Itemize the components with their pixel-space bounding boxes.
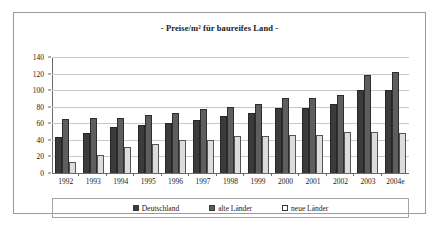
bar xyxy=(179,140,186,173)
legend-item: neue Länder xyxy=(282,204,328,213)
bar xyxy=(392,72,399,173)
x-axis-tick-mark xyxy=(271,173,272,176)
bar xyxy=(282,98,289,173)
bar xyxy=(55,137,62,173)
bar xyxy=(207,140,214,173)
x-axis-tick-mark xyxy=(106,173,107,176)
y-axis-tick-mark xyxy=(48,156,51,157)
bar xyxy=(302,108,309,173)
bar xyxy=(193,120,200,173)
bar xyxy=(165,123,172,173)
y-axis-tick-mark xyxy=(48,139,51,140)
x-axis-tick-label: 2001 xyxy=(299,177,326,186)
bar-group xyxy=(162,57,189,173)
bar xyxy=(83,133,90,173)
bar-group xyxy=(107,57,134,173)
bar xyxy=(110,127,117,173)
y-axis-tick-mark xyxy=(48,57,51,58)
x-axis-tick-mark xyxy=(326,173,327,176)
bar xyxy=(330,104,337,173)
bar xyxy=(344,132,351,173)
y-axis-tick-label: 60 xyxy=(37,119,45,128)
bar xyxy=(262,136,269,173)
bar xyxy=(399,133,406,173)
bar-group xyxy=(134,57,161,173)
bar xyxy=(90,118,97,173)
x-axis-tick-label: 2003 xyxy=(354,177,381,186)
x-axis-tick-label: 1993 xyxy=(79,177,106,186)
x-axis-tick-label: 2004e xyxy=(382,177,409,186)
bar xyxy=(234,136,241,173)
y-axis-tick-label: 140 xyxy=(33,53,44,62)
bar xyxy=(275,108,282,173)
y-axis-tick-mark xyxy=(48,173,51,174)
legend-item-label: alte Länder xyxy=(218,204,252,213)
dark-gray-swatch xyxy=(133,205,139,211)
legend-item-label: neue Länder xyxy=(291,204,328,213)
y-axis-tick-label: 100 xyxy=(33,86,44,95)
x-axis-tick-mark xyxy=(161,173,162,176)
bar xyxy=(172,113,179,173)
bar-group xyxy=(272,57,299,173)
y-axis-tick-label: 80 xyxy=(37,102,45,111)
legend-item: alte Länder xyxy=(209,204,252,213)
bar xyxy=(152,144,159,173)
y-axis-tick-mark xyxy=(48,123,51,124)
bar-group xyxy=(382,57,409,173)
bar-group xyxy=(52,57,79,173)
bar xyxy=(117,118,124,174)
bar-group xyxy=(217,57,244,173)
x-axis-tick-mark xyxy=(133,173,134,176)
chart-legend: Deutschlandalte Länderneue Länder xyxy=(52,198,409,218)
bar xyxy=(248,113,255,173)
x-axis-tick-mark xyxy=(216,173,217,176)
x-axis-tick-mark xyxy=(381,173,382,176)
bar-group xyxy=(299,57,326,173)
x-axis-tick-label: 1999 xyxy=(244,177,271,186)
bar xyxy=(97,155,104,173)
bar xyxy=(62,119,69,173)
y-axis-tick-mark xyxy=(48,106,51,107)
bar-group xyxy=(327,57,354,173)
y-axis-tick-labels: 020406080100120140 xyxy=(14,57,48,173)
x-axis-tick-label: 1996 xyxy=(162,177,189,186)
bar-group xyxy=(354,57,381,173)
y-axis-tick-label: 0 xyxy=(40,169,44,178)
legend-item-label: Deutschland xyxy=(142,204,180,213)
x-axis-tick-label: 1997 xyxy=(189,177,216,186)
bar xyxy=(227,107,234,173)
bar xyxy=(145,115,152,173)
x-axis-tick-labels: 1992199319941995199619971998199920002001… xyxy=(52,177,409,186)
x-axis-tick-mark xyxy=(298,173,299,176)
x-axis-tick-mark xyxy=(188,173,189,176)
x-axis-tick-label: 2002 xyxy=(327,177,354,186)
chart-title: - Preise/m² für baureifes Land - xyxy=(14,23,425,33)
bar xyxy=(385,90,392,173)
bar xyxy=(337,95,344,173)
x-axis-tick-label: 1998 xyxy=(217,177,244,186)
bar xyxy=(220,116,227,173)
bar xyxy=(69,162,76,173)
y-axis-tick-label: 120 xyxy=(33,69,44,78)
y-axis-tick-mark xyxy=(48,73,51,74)
y-axis-tick-mark xyxy=(48,90,51,91)
bar xyxy=(371,132,378,173)
bar xyxy=(364,75,371,173)
chart-frame: - Preise/m² für baureifes Land - 0204060… xyxy=(13,12,426,214)
x-axis-tick-mark xyxy=(243,173,244,176)
y-axis-tick-label: 20 xyxy=(37,152,45,161)
bar xyxy=(138,125,145,173)
medium-gray-swatch xyxy=(209,205,215,211)
bar xyxy=(316,135,323,173)
x-axis-tick-label: 1995 xyxy=(134,177,161,186)
bar-group xyxy=(79,57,106,173)
bar-groups xyxy=(52,57,409,173)
x-axis-tick-label: 1992 xyxy=(52,177,79,186)
bar xyxy=(200,109,207,173)
legend-item: Deutschland xyxy=(133,204,180,213)
x-axis-tick-mark xyxy=(78,173,79,176)
plot-area xyxy=(52,57,409,173)
bar xyxy=(309,98,316,173)
bar-group xyxy=(189,57,216,173)
bar xyxy=(124,147,131,174)
